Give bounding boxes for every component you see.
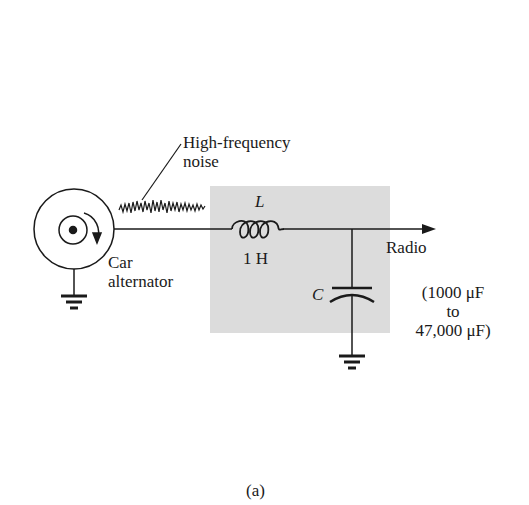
inductor-value-label: 1 H — [243, 249, 268, 268]
capacitor-range-line1: (1000 μF — [398, 283, 508, 302]
alternator-icon — [34, 189, 114, 269]
noise-label-line1: High-frequency — [183, 133, 291, 152]
ground-icon — [61, 269, 87, 308]
radio-output-label: Radio — [386, 238, 427, 257]
capacitor-range-line3: 47,000 μF) — [398, 321, 508, 340]
alternator-label: Car alternator — [108, 253, 173, 291]
filter-region-box — [210, 186, 390, 333]
capacitor-range-label: (1000 μF to 47,000 μF) — [398, 283, 508, 340]
noise-waveform-icon — [119, 200, 205, 213]
noise-leader-line — [142, 144, 181, 200]
inductor-symbol-label: L — [255, 192, 264, 211]
figure-caption: (a) — [246, 481, 265, 500]
output-arrow-icon — [422, 224, 436, 234]
noise-label: High-frequency noise — [183, 133, 291, 171]
capacitor-symbol-label: C — [312, 285, 323, 304]
noise-label-line2: noise — [183, 152, 291, 171]
ground-icon — [339, 356, 365, 368]
alternator-label-line1: Car — [108, 253, 173, 272]
alternator-label-line2: alternator — [108, 272, 173, 291]
capacitor-range-line2: to — [398, 302, 508, 321]
